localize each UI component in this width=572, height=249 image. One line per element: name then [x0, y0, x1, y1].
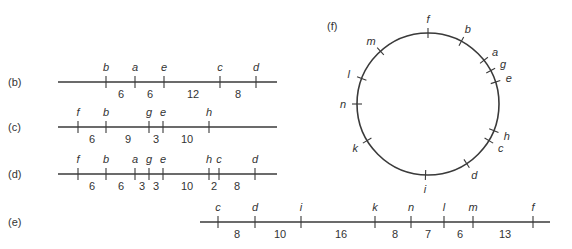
site-label: c — [498, 142, 504, 154]
panel-label-c: (c) — [8, 121, 21, 133]
site-label: h — [504, 130, 510, 142]
site-label: f — [76, 106, 80, 118]
site-label: g — [146, 153, 153, 165]
site-label: d — [253, 61, 260, 73]
site-label: n — [408, 201, 414, 213]
fragment-length: 8 — [392, 228, 398, 240]
site-label: a — [492, 46, 498, 58]
fragment-length: 8 — [234, 228, 240, 240]
fragment-length: 7 — [425, 228, 431, 240]
site-label: c — [215, 201, 221, 213]
circular-map — [357, 33, 499, 175]
site-label: f — [76, 153, 80, 165]
site-label: d — [252, 201, 259, 213]
fragment-length: 8 — [234, 180, 240, 192]
site-label: b — [103, 153, 109, 165]
fragment-length: 10 — [181, 180, 193, 192]
site-tick — [485, 138, 494, 143]
site-label: d — [252, 153, 259, 165]
fragment-length: 10 — [181, 133, 193, 145]
fragment-length: 13 — [499, 228, 511, 240]
site-label: k — [372, 201, 378, 213]
site-label: c — [216, 153, 222, 165]
site-label: d — [471, 169, 478, 181]
fragment-length: 6 — [118, 180, 124, 192]
fragment-length: 12 — [187, 88, 199, 100]
site-label: e — [161, 61, 167, 73]
site-label: m — [468, 201, 477, 213]
site-label: h — [206, 153, 212, 165]
site-label: e — [160, 106, 166, 118]
panel-label-d: (d) — [8, 168, 21, 180]
fragment-length: 3 — [153, 133, 159, 145]
site-label: e — [160, 153, 166, 165]
site-label: l — [347, 68, 350, 80]
site-label: i — [300, 201, 303, 213]
fragment-length: 3 — [153, 180, 159, 192]
fragment-length: 2 — [211, 180, 217, 192]
fragment-length: 10 — [274, 228, 286, 240]
fragment-length: 6 — [147, 88, 153, 100]
site-tick — [464, 159, 469, 167]
site-label: g — [146, 106, 153, 118]
site-tick — [363, 138, 372, 143]
site-label: k — [352, 142, 358, 154]
site-label: f — [531, 201, 535, 213]
site-label: c — [217, 61, 223, 73]
fragment-length: 6 — [89, 133, 95, 145]
site-label: b — [465, 23, 471, 35]
site-label: m — [367, 35, 376, 47]
restriction-map-diagram: (b)baecd66128(c)fbgeh69310(d)fbagehcd663… — [0, 0, 572, 249]
site-label: a — [132, 61, 138, 73]
fragment-length: 9 — [125, 133, 131, 145]
site-label: f — [426, 13, 430, 25]
site-label: b — [103, 61, 109, 73]
fragment-length: 6 — [89, 180, 95, 192]
site-label: g — [500, 58, 507, 70]
site-label: l — [443, 201, 446, 213]
fragment-length: 16 — [335, 228, 347, 240]
panel-label-e: (e) — [8, 216, 21, 228]
fragment-length: 6 — [457, 228, 463, 240]
site-label: h — [206, 106, 212, 118]
site-label: b — [103, 106, 109, 118]
fragment-length: 6 — [118, 88, 124, 100]
site-label: e — [506, 72, 512, 84]
panel-label-f: (f) — [327, 20, 337, 32]
site-label: n — [340, 98, 346, 110]
site-label: a — [132, 153, 138, 165]
fragment-length: 3 — [139, 180, 145, 192]
panel-label-b: (b) — [8, 76, 21, 88]
fragment-length: 8 — [235, 88, 241, 100]
site-label: i — [424, 183, 427, 195]
